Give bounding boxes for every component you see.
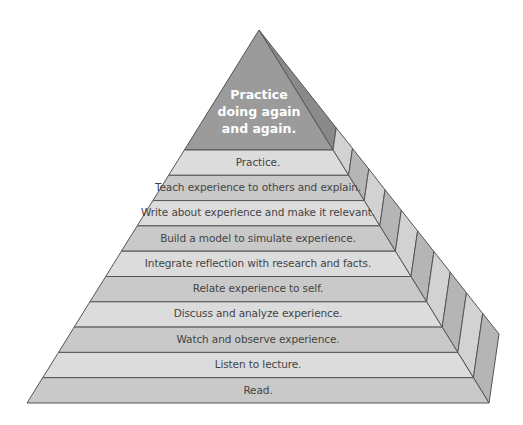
apex-label-line-3: and again. — [222, 121, 296, 136]
learning-pyramid: Practice doing again and again. Practice… — [0, 0, 523, 425]
apex-label-line-2: doing again — [217, 104, 300, 119]
apex-label-line-1: Practice — [230, 87, 287, 102]
level-label-integrate: Integrate reflection with research and f… — [145, 257, 371, 269]
level-label-write: Write about experience and make it relev… — [141, 206, 375, 218]
level-label-read: Read. — [243, 384, 272, 396]
level-label-build-model: Build a model to simulate experience. — [160, 232, 356, 244]
level-label-watch: Watch and observe experience. — [176, 333, 339, 345]
level-label-relate: Relate experience to self. — [193, 282, 323, 294]
level-label-listen: Listen to lecture. — [215, 358, 302, 370]
level-label-discuss: Discuss and analyze experience. — [174, 307, 343, 319]
level-label-teach: Teach experience to others and explain. — [154, 181, 361, 193]
level-label-practice: Practice. — [236, 156, 280, 168]
